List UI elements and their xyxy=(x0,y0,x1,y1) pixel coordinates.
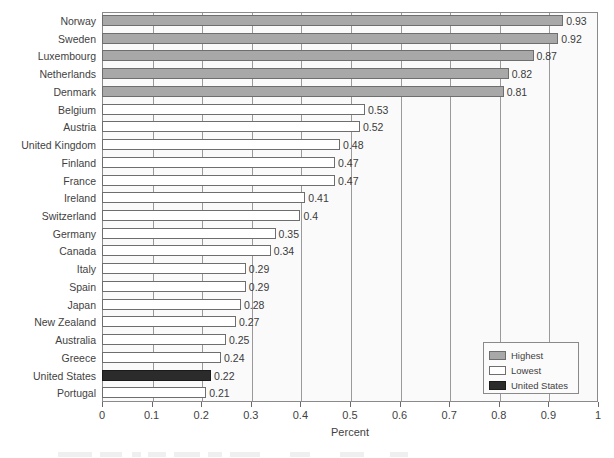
bar-row: 0.81 xyxy=(102,83,598,101)
bar xyxy=(102,281,246,292)
x-axis-title: Percent xyxy=(102,426,598,438)
category-label: Belgium xyxy=(0,101,96,120)
category-label: Canada xyxy=(0,242,96,261)
category-label: Norway xyxy=(0,12,96,31)
bar-value-label: 0.28 xyxy=(244,296,264,314)
bar xyxy=(102,299,241,310)
bar-row: 0.87 xyxy=(102,47,598,65)
bar xyxy=(102,157,335,168)
axis-tick-label: 0.7 xyxy=(442,409,457,421)
bar xyxy=(102,121,360,132)
bar-row: 0.35 xyxy=(102,225,598,243)
category-label: Ireland xyxy=(0,189,96,208)
legend-swatch xyxy=(489,381,506,390)
bar xyxy=(102,245,271,256)
axis-tick-label: 0.1 xyxy=(144,409,159,421)
axis-tick xyxy=(251,402,252,407)
category-label: Sweden xyxy=(0,30,96,49)
bar-row: 0.27 xyxy=(102,313,598,331)
category-label: New Zealand xyxy=(0,313,96,332)
legend-label: Highest xyxy=(511,350,543,361)
axis-tick-label: 0.6 xyxy=(392,409,407,421)
axis-tick-label: 0.4 xyxy=(293,409,308,421)
bar xyxy=(102,192,305,203)
axis-tick xyxy=(300,402,301,407)
bar-value-label: 0.81 xyxy=(507,83,527,101)
bar-value-label: 0.92 xyxy=(561,30,581,48)
bar-row: 0.34 xyxy=(102,242,598,260)
legend-swatch xyxy=(489,351,506,360)
axis-tick xyxy=(152,402,153,407)
bar-row: 0.52 xyxy=(102,118,598,136)
caption-fragment xyxy=(40,451,460,458)
bar-row: 0.41 xyxy=(102,189,598,207)
bar-value-label: 0.93 xyxy=(566,12,586,30)
bar xyxy=(102,86,504,97)
bar-value-label: 0.47 xyxy=(338,172,358,190)
bar-value-label: 0.52 xyxy=(363,118,383,136)
legend-swatch xyxy=(489,366,506,375)
category-label: Netherlands xyxy=(0,65,96,84)
category-label: United States xyxy=(0,367,96,386)
bar-row: 0.93 xyxy=(102,12,598,30)
bar xyxy=(102,352,221,363)
axis-tick xyxy=(201,402,202,407)
bar-value-label: 0.34 xyxy=(274,242,294,260)
bar xyxy=(102,228,276,239)
bar-row: 0.4 xyxy=(102,207,598,225)
bar xyxy=(102,139,340,150)
bar-row: 0.47 xyxy=(102,154,598,172)
category-label: Australia xyxy=(0,331,96,350)
category-label: Switzerland xyxy=(0,207,96,226)
bar-value-label: 0.47 xyxy=(338,154,358,172)
bar xyxy=(102,68,509,79)
bar-value-label: 0.87 xyxy=(537,47,557,65)
axis-tick-label: 0.5 xyxy=(342,409,357,421)
category-label: Germany xyxy=(0,225,96,244)
bar-value-label: 0.29 xyxy=(249,278,269,296)
legend-label: Lowest xyxy=(511,365,541,376)
axis-tick-label: 0.8 xyxy=(491,409,506,421)
bar-row: 0.28 xyxy=(102,296,598,314)
bar-value-label: 0.53 xyxy=(368,101,388,119)
bar-value-label: 0.35 xyxy=(279,225,299,243)
axis-tick xyxy=(449,402,450,407)
category-label: Finland xyxy=(0,154,96,173)
category-label: Denmark xyxy=(0,83,96,102)
bar xyxy=(102,210,300,221)
category-label: Portugal xyxy=(0,384,96,403)
bar xyxy=(102,33,558,44)
bar xyxy=(102,263,246,274)
bar-row: 0.82 xyxy=(102,65,598,83)
bar xyxy=(102,387,206,398)
legend-label: United States xyxy=(511,380,568,391)
category-label: France xyxy=(0,172,96,191)
category-label: Greece xyxy=(0,349,96,368)
chart-legend: HighestLowestUnited States xyxy=(483,342,579,394)
bar xyxy=(102,15,563,26)
bar-value-label: 0.4 xyxy=(303,207,318,225)
bar-value-label: 0.22 xyxy=(214,367,234,385)
category-label: Italy xyxy=(0,260,96,279)
bar-value-label: 0.24 xyxy=(224,349,244,367)
axis-tick xyxy=(350,402,351,407)
category-label: Austria xyxy=(0,118,96,137)
axis-tick xyxy=(400,402,401,407)
axis-tick-label: 0.9 xyxy=(541,409,556,421)
category-label: United Kingdom xyxy=(0,136,96,155)
category-axis-labels: NorwaySwedenLuxembourgNetherlandsDenmark… xyxy=(0,12,96,402)
bar-row: 0.29 xyxy=(102,260,598,278)
bar-row: 0.92 xyxy=(102,30,598,48)
category-label: Luxembourg xyxy=(0,47,96,66)
bar-row: 0.53 xyxy=(102,101,598,119)
legend-item: United States xyxy=(489,378,578,392)
bar-row: 0.48 xyxy=(102,136,598,154)
legend-item: Lowest xyxy=(489,363,578,377)
axis-tick-label: 1 xyxy=(595,409,601,421)
bar-value-label: 0.25 xyxy=(229,331,249,349)
axis-tick xyxy=(548,402,549,407)
bar xyxy=(102,334,226,345)
bar-row: 0.29 xyxy=(102,278,598,296)
bar-value-label: 0.48 xyxy=(343,136,363,154)
bar-row: 0.47 xyxy=(102,172,598,190)
